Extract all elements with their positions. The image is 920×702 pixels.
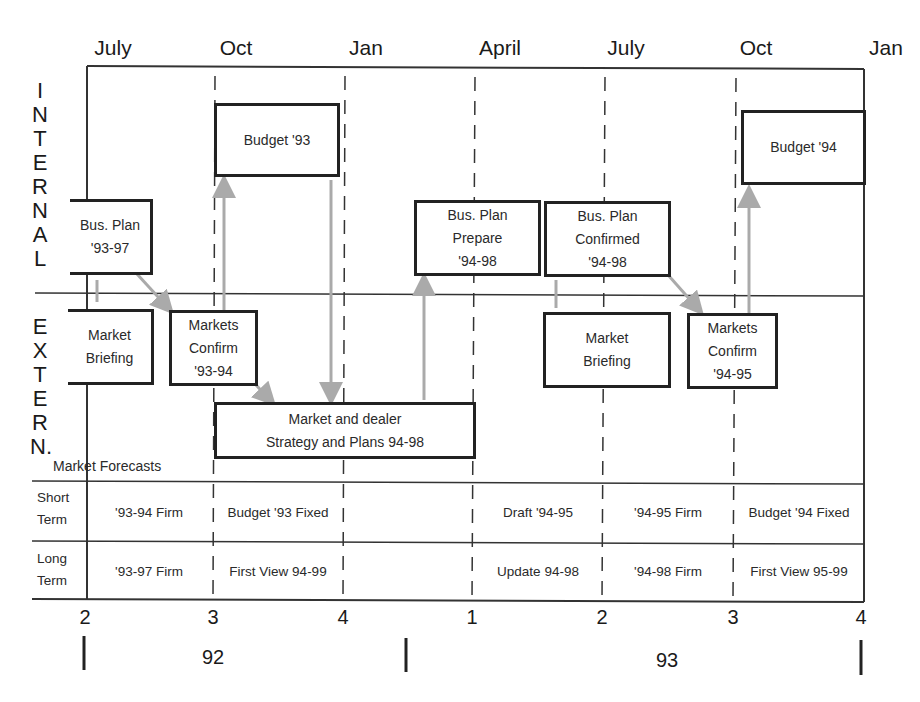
box-label: Market Briefing	[86, 324, 133, 370]
forecast-cell: Update 94-98	[497, 564, 579, 579]
letter: L	[30, 248, 50, 270]
month-label: Jan	[349, 36, 383, 60]
forecast-cell: '93-94 Firm	[115, 505, 183, 520]
forecast-cell: '93-97 Firm	[115, 564, 183, 579]
bus-plan-confirmed-box: Bus. Plan Confirmed '94-98	[544, 201, 671, 277]
month-label: Jan	[869, 36, 903, 60]
budget-94-box: Budget '94	[741, 110, 866, 185]
letter: X	[30, 340, 50, 362]
letter: E	[30, 152, 50, 174]
market-briefing-box: Market Briefing	[68, 309, 154, 385]
month-label: July	[94, 36, 131, 60]
box-label: Bus. Plan Prepare '94-98	[448, 204, 508, 273]
year-label: 93	[656, 649, 678, 672]
section-divider	[35, 293, 864, 296]
box-label: Market Briefing	[583, 327, 630, 373]
box-label: Budget '94	[770, 136, 837, 159]
letter: E	[30, 316, 50, 338]
quarter-label: 2	[596, 606, 607, 629]
long-term-label: Long Term	[37, 548, 67, 592]
letter: E	[30, 388, 50, 410]
letter: A	[30, 224, 50, 246]
forecast-cell: '94-95 Firm	[634, 505, 702, 520]
letter: R	[30, 176, 50, 198]
month-label: Oct	[740, 36, 773, 60]
market-forecasts-title: Market Forecasts	[53, 458, 161, 474]
letter: N	[30, 104, 50, 126]
letter: T	[30, 364, 50, 386]
month-label: April	[479, 36, 521, 60]
short-term-label: Short Term	[37, 487, 69, 531]
box-label: Bus. Plan Confirmed '94-98	[575, 205, 640, 274]
market-briefing-box-2: Market Briefing	[543, 312, 671, 388]
bus-plan-93-97-box: Bus. Plan '93-97	[70, 199, 153, 275]
bus-plan-prepare-box: Bus. Plan Prepare '94-98	[414, 200, 541, 276]
letter: R	[30, 412, 50, 434]
market-dealer-strategy-box: Market and dealer Strategy and Plans 94-…	[214, 402, 476, 459]
markets-confirm-93-94-box: Markets Confirm '93-94	[169, 310, 258, 386]
forecast-cell: Draft '94-95	[503, 505, 573, 520]
quarter-label: 2	[79, 606, 90, 629]
forecast-cell: First View 95-99	[750, 564, 847, 579]
month-label: Oct	[220, 36, 253, 60]
quarter-label: 1	[466, 606, 477, 629]
frame-top	[87, 66, 864, 69]
month-label: July	[607, 36, 644, 60]
forecast-cell: First View 94-99	[229, 564, 326, 579]
letter: I	[30, 80, 50, 102]
box-label: Market and dealer Strategy and Plans 94-…	[266, 408, 424, 454]
box-label: Bus. Plan '93-97	[80, 214, 140, 260]
markets-confirm-94-95-box: Markets Confirm '94-95	[687, 313, 778, 389]
forecast-cell: Budget '93 Fixed	[228, 505, 329, 520]
quarter-label: 4	[337, 606, 348, 629]
box-label: Markets Confirm '93-94	[189, 314, 239, 383]
quarter-label: 4	[855, 606, 866, 629]
forecast-cell: '94-98 Firm	[634, 564, 702, 579]
letter: N	[30, 200, 50, 222]
year-label: 92	[202, 646, 224, 669]
forecast-cell: Budget '94 Fixed	[749, 505, 850, 520]
letter: T	[30, 128, 50, 150]
letter: N.	[30, 436, 60, 458]
box-label: Markets Confirm '94-95	[708, 317, 758, 386]
quarter-label: 3	[207, 606, 218, 629]
box-label: Budget '93	[244, 129, 311, 152]
quarter-label: 3	[727, 606, 738, 629]
budget-93-box: Budget '93	[214, 103, 340, 177]
